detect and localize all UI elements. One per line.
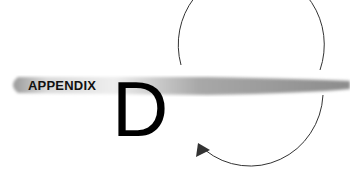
appendix-label: APPENDIX bbox=[28, 78, 96, 93]
appendix-letter: D bbox=[112, 70, 168, 148]
